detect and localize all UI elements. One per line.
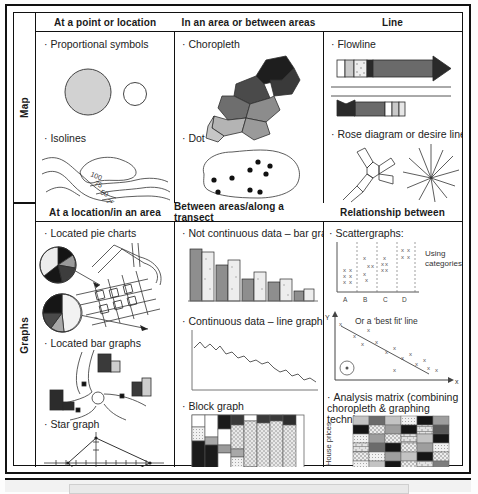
category-tick-b: B [363,296,367,303]
svg-text:x: x [385,349,388,355]
svg-text:x: x [381,267,384,273]
svg-text:x: x [343,279,346,285]
category-scatter-graphic: A B C D xx xx xx xxx xx xx xx x xx xx [323,238,462,310]
row-label-graphs-text: Graphs [19,317,30,354]
label-located-bar-graphs: Located bar graphs [44,337,141,349]
bestfit-scatter-graphic: Y x Or a 'best fit' line xxx xxx xxx xxx… [323,310,462,396]
svg-text:x: x [353,333,356,339]
annotation-using: Using [425,249,445,258]
analysis-matrix-graphic: House prices [323,414,462,467]
label-block-graph: Block graph [182,400,244,412]
svg-text:x: x [401,355,404,361]
figure-page: Map Graphs At a point or location In an … [0,0,478,494]
line-graph-graphic [174,328,323,400]
svg-text:x: x [427,365,430,371]
rose-diagram-graphic [323,142,462,202]
header-map-point: At a point or location [36,13,174,32]
svg-text:x: x [407,247,410,253]
bottom-strip [5,478,471,492]
cell-map-point: Proportional symbols Isolines 100 75 [36,32,174,203]
svg-text:x: x [367,263,370,269]
label-proportional-symbols: Proportional symbols [44,38,148,50]
svg-text:x: x [343,267,346,273]
svg-text:x: x [367,327,370,333]
flowline-graphic [323,52,462,122]
svg-text:x: x [435,367,438,373]
svg-text:x: x [393,345,396,351]
label-rose-diagram: Rose diagram or desire lines [331,128,462,140]
row-label-graphs: Graphs [14,203,36,467]
svg-text:x: x [339,321,342,327]
svg-text:x: x [393,367,396,373]
choropleth-graphic [174,50,323,142]
star-graph-graphic [36,430,174,467]
header-map-line: Line [323,13,462,32]
cell-graph-relationship: Scattergraphs: A B C D xx [323,222,462,467]
svg-text:x: x [407,254,410,260]
svg-text:x: x [365,277,368,283]
label-choropleth: Choropleth [182,38,240,50]
svg-text:x: x [415,361,418,367]
label-isolines: Isolines [44,132,86,144]
svg-text:x: x [349,267,352,273]
svg-text:x: x [361,341,364,347]
category-tick-c: C [383,296,388,303]
technique-table: Map Graphs At a point or location In an … [13,12,463,466]
label-line-graph: Continuous data – line graph [182,315,323,327]
svg-text:x: x [401,247,404,253]
svg-text:x: x [409,351,412,357]
row-label-map: Map [14,13,36,203]
label-located-pie-charts: Located pie charts [44,227,136,239]
label-dot: Dot [182,132,205,144]
label-bar-graph: Not continuous data – bar graph [182,227,323,239]
category-tick-a: A [343,296,348,303]
header-graph-transect: Between areas/along a transect [174,203,323,222]
svg-text:x: x [371,263,374,269]
bottom-strip-inner [69,484,409,494]
matrix-axis-y-label: House prices [324,422,333,466]
label-flowline: Flowline [331,38,376,50]
header-graph-relationship: Relationship between [323,203,462,222]
cell-graph-location: Located pie charts [36,222,174,467]
cell-map-area: Choropleth Dot [174,32,323,203]
axis-label-x: x [455,378,459,385]
block-graph-graphic [174,413,323,467]
annotation-categories: categories [425,259,462,268]
svg-text:x: x [375,339,378,345]
svg-text:x: x [401,254,404,260]
isolines-graphic: 100 75 50 25 [36,148,174,203]
header-graph-location: At a location/in an area [36,203,174,222]
proportional-symbols-graphic [36,54,174,124]
axis-label-y: Y [325,314,330,321]
located-pie-charts-graphic [36,239,174,339]
bar-graph-graphic [174,239,323,311]
annotation-best-fit: Or a 'best fit' line [355,316,418,326]
located-bar-graphs-graphic [36,350,174,422]
category-tick-d: D [402,296,407,303]
svg-text:x: x [385,267,388,273]
dot-map-graphic [174,146,323,202]
cell-map-line: Flowline [323,32,462,203]
row-label-map-text: Map [19,97,30,118]
svg-text:x: x [423,357,426,363]
svg-text:x: x [363,255,366,261]
label-star-graph: Star graph [44,418,99,430]
cell-graph-transect: Not continuous data – bar graph [174,222,323,467]
svg-text:x: x [349,279,352,285]
header-map-area: In an area or between areas [174,13,323,32]
svg-text:x: x [383,255,386,261]
